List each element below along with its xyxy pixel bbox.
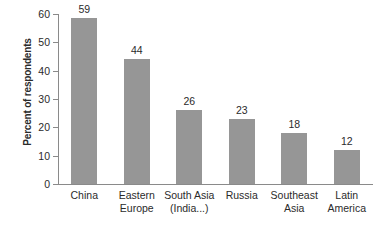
bar <box>281 133 307 184</box>
x-axis-line <box>58 184 373 185</box>
bar-chart: Percent of respondents 0102030405060 594… <box>0 0 383 232</box>
y-tick-label: 40 <box>6 66 50 76</box>
bar-group: 59 <box>58 4 110 184</box>
bar-value-label: 12 <box>341 136 353 147</box>
bar <box>334 150 360 184</box>
bar-value-label: 18 <box>288 119 300 130</box>
y-tick-label: 60 <box>6 9 50 19</box>
x-axis-category-label-line: America <box>316 202 378 215</box>
y-tick-label: 0 <box>6 179 50 189</box>
y-tick-label: 30 <box>6 94 50 104</box>
bar-group: 12 <box>321 4 373 184</box>
x-axis-category-label: LatinAmerica <box>316 189 378 214</box>
bar <box>71 18 97 184</box>
bar <box>176 110 202 184</box>
bar-value-label: 26 <box>183 96 195 107</box>
bar-value-label: 23 <box>236 105 248 116</box>
x-axis-category-label-line: (India...) <box>158 202 220 215</box>
bar-value-label: 44 <box>131 45 143 56</box>
bar-value-label: 59 <box>78 4 90 15</box>
bar-group: 44 <box>111 4 163 184</box>
x-axis-category-label-line: Latin <box>316 189 378 202</box>
bar-group: 26 <box>163 4 215 184</box>
bar <box>229 119 255 184</box>
y-tick-label: 10 <box>6 151 50 161</box>
y-axis-ticks: 0102030405060 <box>0 0 58 232</box>
bar <box>124 59 150 184</box>
y-tick-label: 50 <box>6 37 50 47</box>
bar-group: 18 <box>268 4 320 184</box>
y-tick-label: 20 <box>6 122 50 132</box>
bar-group: 23 <box>216 4 268 184</box>
